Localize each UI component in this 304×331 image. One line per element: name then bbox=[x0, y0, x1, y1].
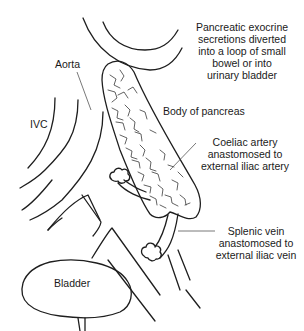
splenic-anastomosis bbox=[142, 214, 178, 261]
ivc-label: IVC bbox=[30, 118, 48, 130]
body-of-pancreas-label: Body of pancreas bbox=[163, 105, 245, 117]
external-iliac-vein bbox=[92, 228, 200, 321]
bowel-loop bbox=[83, 18, 182, 70]
exocrine-label: Pancreatic exocrine secretions diverted … bbox=[180, 21, 304, 81]
aorta-leader bbox=[77, 72, 91, 110]
ivc-vessel bbox=[22, 98, 55, 210]
external-iliac-artery bbox=[48, 195, 101, 236]
aorta-label: Aorta bbox=[55, 58, 80, 70]
bladder-label: Bladder bbox=[54, 277, 90, 289]
coeliac-artery-label: Coeliac artery anastomosed to external i… bbox=[186, 136, 304, 172]
bladder bbox=[22, 260, 131, 331]
splenic-vein-label: Splenic vein anastomosed to external ili… bbox=[208, 225, 304, 261]
